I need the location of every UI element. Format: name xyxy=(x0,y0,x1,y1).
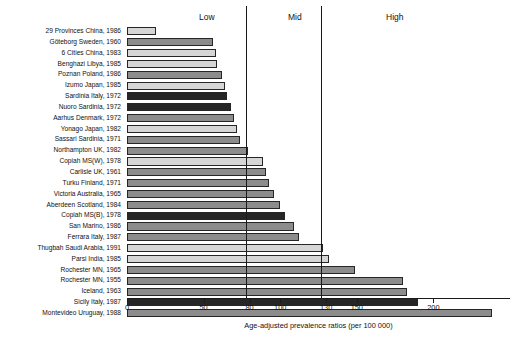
category-label: Victoria Australia, 1965 xyxy=(0,189,124,200)
category-label: Aarhus Denmark, 1972 xyxy=(0,113,124,124)
category-label: Göteborg Sweden, 1960 xyxy=(0,37,124,48)
category-label: Carlisle UK, 1961 xyxy=(0,167,124,178)
category-label: 6 Cities China, 1983 xyxy=(0,48,124,59)
bar xyxy=(127,222,294,230)
bar-row xyxy=(127,113,510,124)
axis-tick-label: 130 xyxy=(320,303,332,312)
category-label: Rochester MN, 1965 xyxy=(0,265,124,276)
bar xyxy=(127,277,403,285)
category-label: San Marino, 1986 xyxy=(0,221,124,232)
axis-tick-label: 50 xyxy=(199,303,207,312)
bar xyxy=(127,114,234,122)
prevalence-bar-chart: Low Mid High 29 Provinces China, 1986Göt… xyxy=(0,0,510,347)
bar-row xyxy=(127,286,510,297)
bar-row xyxy=(127,80,510,91)
bar-row xyxy=(127,275,510,286)
bar-row xyxy=(127,134,510,145)
bar xyxy=(127,136,240,144)
category-label: Aberdeen Scotland, 1984 xyxy=(0,200,124,211)
bar-row xyxy=(127,232,510,243)
category-label: Iceland, 1963 xyxy=(0,286,124,297)
bar xyxy=(127,125,237,133)
bar-row xyxy=(127,59,510,70)
bar xyxy=(127,92,227,100)
axis-tick-label: 0 xyxy=(125,303,129,312)
axis-tick-label: 200 xyxy=(427,303,439,312)
bar-row xyxy=(127,265,510,276)
axis-tick-label: 150 xyxy=(351,303,363,312)
band-label-low: Low xyxy=(199,12,215,22)
category-label: Rochester MN, 1955 xyxy=(0,275,124,286)
bar xyxy=(127,233,299,241)
x-axis-title: Age-adjusted prevalence ratios (per 100 … xyxy=(127,321,510,330)
bar xyxy=(127,157,263,165)
bar xyxy=(127,103,231,111)
category-label: Sardinia Italy, 1972 xyxy=(0,91,124,102)
category-label: 29 Provinces China, 1986 xyxy=(0,26,124,37)
bar xyxy=(127,147,248,155)
axis-tick-label: 100 xyxy=(274,303,286,312)
bar-row xyxy=(127,156,510,167)
category-label: Copiah MS(B), 1978 xyxy=(0,210,124,221)
bar xyxy=(127,49,216,57)
bar-row xyxy=(127,124,510,135)
bar xyxy=(127,60,217,68)
bar xyxy=(127,255,329,263)
category-label: Benghazi Libya, 1985 xyxy=(0,59,124,70)
reference-line-80 xyxy=(246,6,247,298)
category-label: Turku Finland, 1971 xyxy=(0,178,124,189)
category-label: Thugbah Saudi Arabia, 1991 xyxy=(0,243,124,254)
bar-row xyxy=(127,69,510,80)
bar xyxy=(127,82,225,90)
bar-row xyxy=(127,145,510,156)
bar xyxy=(127,244,323,252)
category-label: Montevideo Uruguay, 1988 xyxy=(0,308,124,319)
bar-row xyxy=(127,26,510,37)
bar xyxy=(127,71,222,79)
x-axis: 05080100130150200 xyxy=(127,298,510,310)
category-label: Sicily Italy, 1987 xyxy=(0,297,124,308)
bar xyxy=(127,201,280,209)
bar-row xyxy=(127,178,510,189)
category-label: Poznan Poland, 1986 xyxy=(0,69,124,80)
bar-row xyxy=(127,189,510,200)
bar xyxy=(127,212,285,220)
bar-row xyxy=(127,48,510,59)
bar-row xyxy=(127,91,510,102)
bar-row xyxy=(127,102,510,113)
bar-row xyxy=(127,167,510,178)
bar-row xyxy=(127,254,510,265)
category-labels: 29 Provinces China, 1986Göteborg Sweden,… xyxy=(0,26,124,319)
bar-row xyxy=(127,37,510,48)
category-label: Copiah MS(W), 1978 xyxy=(0,156,124,167)
bar xyxy=(127,27,156,35)
category-label: Ferrara Italy, 1987 xyxy=(0,232,124,243)
plot-area xyxy=(127,26,510,298)
bar-row xyxy=(127,221,510,232)
bar-row xyxy=(127,210,510,221)
category-label: Izumo Japan, 1985 xyxy=(0,80,124,91)
bar xyxy=(127,179,269,187)
axis-line xyxy=(127,298,510,299)
band-label-high: High xyxy=(386,12,403,22)
bar xyxy=(127,190,274,198)
bar xyxy=(127,288,407,296)
bar-row xyxy=(127,200,510,211)
category-label: Nuoro Sardinia, 1972 xyxy=(0,102,124,113)
axis-tick-label: 80 xyxy=(245,303,253,312)
bars-group xyxy=(127,26,510,298)
bar-row xyxy=(127,243,510,254)
band-label-mid: Mid xyxy=(288,12,302,22)
reference-line-130 xyxy=(321,6,322,298)
category-label: Sassari Sardinia, 1971 xyxy=(0,134,124,145)
category-label: Yonago Japan, 1982 xyxy=(0,124,124,135)
category-label: Parsi India, 1985 xyxy=(0,254,124,265)
category-label: Northampton UK, 1982 xyxy=(0,145,124,156)
bar xyxy=(127,38,213,46)
